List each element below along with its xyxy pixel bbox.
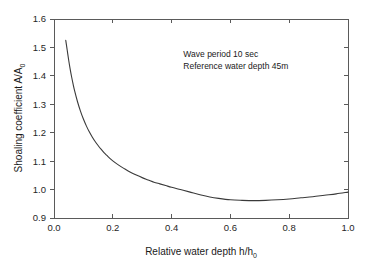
y-tick-label-5: 1.4	[33, 70, 46, 81]
y-tick-label-6: 1.5	[33, 42, 46, 53]
x-tick-label-4: 0.8	[283, 222, 296, 233]
x-tick-label-0: 0.0	[47, 222, 60, 233]
y-axis-title: Shoaling coefficient A/A0	[13, 64, 26, 173]
annotation-0: Wave period 10 sec	[183, 49, 259, 59]
y-axis-title-main: Shoaling coefficient A/A	[13, 67, 24, 172]
y-axis-title-subscript: 0	[19, 64, 26, 68]
y-tick-label-3: 1.2	[33, 127, 46, 138]
x-axis-title-subscript: 0	[253, 252, 257, 259]
chart-annotations: Wave period 10 secReference water depth …	[183, 49, 288, 70]
shoaling-coefficient-chart: 0.00.20.40.60.81.0 0.91.01.11.21.31.41.5…	[0, 0, 373, 269]
x-tick-label-1: 0.2	[106, 222, 119, 233]
x-tick-label-5: 1.0	[341, 222, 354, 233]
x-axis-title-main: Relative water depth h/h	[145, 246, 253, 257]
y-tick-label-2: 1.1	[33, 156, 46, 167]
y-tick-label-4: 1.3	[33, 99, 46, 110]
chart-figure: 0.00.20.40.60.81.0 0.91.01.11.21.31.41.5…	[0, 0, 373, 269]
annotation-1: Reference water depth 45m	[183, 61, 288, 71]
x-tick-label-2: 0.4	[165, 222, 178, 233]
x-axis-title: Relative water depth h/h0	[145, 246, 257, 259]
y-tick-label-1: 1.0	[33, 184, 46, 195]
x-tick-label-3: 0.6	[224, 222, 237, 233]
x-tick-labels: 0.00.20.40.60.81.0	[47, 222, 354, 233]
y-tick-label-7: 1.6	[33, 13, 46, 24]
y-tick-labels: 0.91.01.11.21.31.41.51.6	[33, 13, 46, 223]
y-tick-label-0: 0.9	[33, 212, 46, 223]
